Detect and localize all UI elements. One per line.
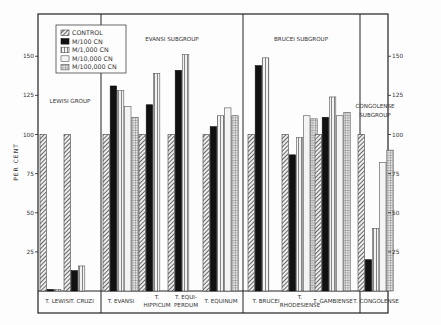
bar-m-100-cn <box>110 86 116 291</box>
bar-m-100-000-cn <box>344 113 350 291</box>
bar-m-10-000-cn <box>304 116 310 291</box>
right-tick-label: 150 <box>392 53 403 59</box>
bar-m-100-000-cn <box>232 116 238 291</box>
right-tick-label: 50 <box>392 210 400 216</box>
group-label: LEWISI GROUP <box>50 98 92 104</box>
bar-m-10-000-cn <box>337 116 343 291</box>
left-tick-label: 50 <box>27 210 35 216</box>
category-label: T. EQUI- <box>174 294 197 300</box>
group-label: EVANSI SUBGROUP <box>145 36 199 42</box>
bar-control <box>168 135 174 292</box>
category-label: PERDUM <box>174 302 198 308</box>
legend-label: M/1,000 CN <box>72 46 109 53</box>
right-tick-label: 100 <box>392 132 403 138</box>
category-label: HIPPICUM <box>143 302 170 308</box>
left-tick-label: 75 <box>27 171 35 177</box>
bar-m-100-cn <box>255 66 261 291</box>
bar-m-1-000-cn <box>153 73 159 291</box>
category-label: T. CONGOLENSE <box>352 298 399 304</box>
bar-control <box>282 135 288 292</box>
category-label: T. EQUINUM <box>203 298 237 304</box>
bar-m-1-000-cn <box>217 116 223 291</box>
legend-swatch <box>61 47 69 53</box>
bar-control <box>315 135 321 292</box>
category-label: T. CRUZI <box>69 298 94 304</box>
bar-chart: 252550507575100100125125150150PER CENT L… <box>0 0 441 325</box>
bar-m-10-000-cn <box>125 106 131 291</box>
bar-control <box>358 135 364 292</box>
left-tick-label: 125 <box>23 92 34 98</box>
y-axis-label: PER CENT <box>12 143 19 181</box>
bar-m-1-000-cn <box>296 138 302 291</box>
bar-m-1-000-cn <box>372 228 378 291</box>
bar-m-100-cn <box>175 70 181 291</box>
bar-control <box>139 135 145 292</box>
bar-m-100-cn <box>146 105 152 291</box>
group-label: CONGOLENSE <box>355 103 395 109</box>
legend-label: CONTROL <box>72 29 103 36</box>
left-tick-label: 100 <box>23 132 34 138</box>
bars <box>40 55 393 291</box>
right-tick-label: 75 <box>392 171 400 177</box>
group-label: BRUCEI SUBGROUP <box>274 36 329 42</box>
category-label: T. BRUCEI <box>251 298 280 304</box>
bar-m-10-000-cn <box>225 108 231 291</box>
right-tick-label: 25 <box>392 249 400 255</box>
left-tick-label: 25 <box>27 249 35 255</box>
bar-m-100-cn <box>322 117 328 291</box>
bar-control <box>40 135 46 292</box>
bar-m-100-000-cn <box>132 117 138 291</box>
bar-control <box>64 135 70 292</box>
legend-label: M/10,000 CN <box>72 55 113 62</box>
bar-m-1-000-cn <box>182 55 188 291</box>
bar-m-1-000-cn <box>329 97 335 291</box>
category-label: T. GAMBIENSE <box>312 298 353 304</box>
category-label: T. <box>154 294 160 300</box>
bar-control <box>203 135 209 292</box>
bar-m-100-cn <box>47 289 53 291</box>
bar-m-1-000-cn <box>54 289 60 291</box>
bar-m-100-cn <box>210 127 216 291</box>
bar-m-100-cn <box>289 155 295 291</box>
legend-label: M/100 CN <box>72 38 103 45</box>
bar-m-1-000-cn <box>117 91 123 291</box>
legend: CONTROLM/100 CNM/1,000 CNM/10,000 CNM/10… <box>56 25 126 73</box>
right-tick-label: 125 <box>392 92 403 98</box>
bar-m-1-000-cn <box>262 58 268 291</box>
group-label: SUBGROUP <box>359 112 391 118</box>
bar-m-1-000-cn <box>78 266 84 291</box>
legend-swatch <box>61 39 69 45</box>
category-label: T. LEWISI <box>44 298 71 304</box>
category-label: T. <box>297 294 303 300</box>
bar-m-100-cn <box>71 271 77 291</box>
legend-label: M/100,000 CN <box>72 63 117 70</box>
bar-m-100-cn <box>365 260 371 291</box>
bar-m-10-000-cn <box>380 163 386 291</box>
category-label: T. EVANSI <box>107 298 135 304</box>
bar-control <box>248 135 254 292</box>
bar-control <box>103 135 109 292</box>
legend-swatch <box>61 30 69 36</box>
legend-swatch <box>61 64 69 70</box>
legend-swatch <box>61 56 69 62</box>
left-tick-label: 150 <box>23 53 34 59</box>
